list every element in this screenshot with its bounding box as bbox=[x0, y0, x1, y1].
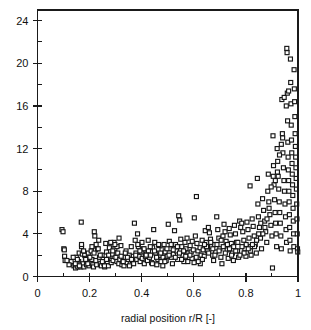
data-point bbox=[194, 255, 198, 259]
data-point bbox=[92, 251, 96, 255]
data-point bbox=[109, 240, 113, 244]
data-markers-group bbox=[60, 46, 300, 270]
data-point bbox=[92, 230, 96, 234]
data-point bbox=[270, 266, 274, 270]
data-point bbox=[98, 253, 102, 257]
data-point bbox=[163, 260, 167, 264]
data-point bbox=[86, 262, 90, 266]
data-point bbox=[102, 264, 106, 268]
data-point bbox=[140, 240, 144, 244]
data-point bbox=[193, 234, 197, 238]
data-point bbox=[185, 236, 189, 240]
data-point bbox=[192, 216, 196, 220]
data-point bbox=[179, 237, 183, 241]
data-point bbox=[71, 255, 75, 259]
y-axis-tick-label: 24 bbox=[16, 15, 28, 27]
data-point bbox=[248, 184, 252, 188]
data-point bbox=[293, 115, 297, 119]
data-point bbox=[289, 80, 293, 84]
data-point bbox=[261, 197, 265, 201]
data-point bbox=[234, 249, 238, 253]
data-point bbox=[148, 245, 152, 249]
data-point bbox=[80, 243, 84, 247]
data-point bbox=[269, 185, 273, 189]
data-point bbox=[287, 213, 291, 217]
data-point bbox=[293, 132, 297, 136]
data-point bbox=[138, 249, 142, 253]
data-point bbox=[213, 253, 217, 257]
data-point bbox=[276, 159, 280, 163]
data-point bbox=[284, 104, 288, 108]
data-point bbox=[227, 227, 231, 231]
data-point bbox=[257, 232, 261, 236]
data-point bbox=[84, 257, 88, 261]
data-point bbox=[125, 255, 129, 259]
data-point bbox=[144, 253, 148, 257]
data-point bbox=[288, 57, 292, 61]
x-axis-tick-label: 0.8 bbox=[238, 287, 253, 299]
data-point bbox=[134, 253, 138, 257]
data-point bbox=[142, 247, 146, 251]
data-point bbox=[275, 170, 279, 174]
data-point bbox=[241, 230, 245, 234]
data-point bbox=[165, 247, 169, 251]
data-point bbox=[246, 228, 250, 232]
data-point bbox=[200, 238, 204, 242]
data-point bbox=[286, 119, 290, 123]
data-point bbox=[196, 260, 200, 264]
data-point bbox=[130, 257, 134, 261]
data-point bbox=[261, 232, 265, 236]
data-point bbox=[275, 245, 279, 249]
data-point bbox=[281, 136, 285, 140]
data-point bbox=[273, 211, 277, 215]
data-point bbox=[278, 153, 282, 157]
data-point bbox=[82, 249, 86, 253]
data-point bbox=[207, 231, 211, 235]
data-point bbox=[255, 238, 259, 242]
data-point bbox=[177, 214, 181, 218]
x-axis-tick-label: 0.2 bbox=[82, 287, 97, 299]
data-point bbox=[292, 68, 296, 72]
data-point bbox=[267, 200, 271, 204]
data-point bbox=[240, 221, 244, 225]
data-point bbox=[77, 264, 81, 268]
data-point bbox=[272, 164, 276, 168]
data-point bbox=[250, 217, 254, 221]
data-point bbox=[146, 238, 150, 242]
data-point bbox=[149, 253, 153, 257]
data-point bbox=[132, 262, 136, 266]
data-point bbox=[236, 240, 240, 244]
data-point bbox=[186, 260, 190, 264]
x-axis-tick-label: 0.6 bbox=[186, 287, 201, 299]
data-point bbox=[96, 247, 100, 251]
x-axis-tick-label: 0 bbox=[34, 287, 40, 299]
data-point bbox=[287, 200, 291, 204]
y-axis-tick-label: 8 bbox=[22, 185, 28, 197]
data-point bbox=[215, 243, 219, 247]
data-point bbox=[159, 251, 163, 255]
data-point bbox=[242, 238, 246, 242]
data-point bbox=[250, 243, 254, 247]
data-point bbox=[293, 144, 297, 148]
data-point bbox=[286, 155, 290, 159]
data-point bbox=[152, 249, 156, 253]
data-point bbox=[219, 255, 223, 259]
data-point bbox=[270, 234, 274, 238]
data-point bbox=[175, 245, 179, 249]
data-point bbox=[256, 202, 260, 206]
data-point bbox=[289, 138, 293, 142]
data-point bbox=[90, 245, 94, 249]
data-point bbox=[219, 238, 223, 242]
data-point bbox=[105, 257, 109, 261]
data-point bbox=[182, 249, 186, 253]
data-point bbox=[238, 253, 242, 257]
data-point bbox=[269, 223, 273, 227]
data-point bbox=[170, 262, 174, 266]
data-point bbox=[266, 189, 270, 193]
data-point bbox=[79, 220, 83, 224]
data-point bbox=[288, 238, 292, 242]
data-point bbox=[169, 243, 173, 247]
data-point bbox=[136, 243, 140, 247]
data-point bbox=[209, 240, 213, 244]
data-point bbox=[184, 254, 188, 258]
